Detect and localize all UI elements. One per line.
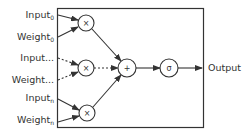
sigma-icon: σ — [166, 64, 171, 73]
multiply-icon: × — [84, 109, 91, 118]
label-weight-0: Weight0 — [17, 31, 54, 43]
label-weight-mid: Weight... — [12, 74, 54, 85]
label-input-mid: Input... — [20, 52, 54, 63]
output-label: Output — [208, 62, 241, 73]
mult-to-sum-arrows — [92, 29, 202, 107]
multiply-node-mid: × — [78, 60, 94, 76]
activation-node: σ — [160, 59, 178, 77]
sum-node: + — [118, 59, 136, 77]
neuron-diagram: Input0 Weight0 Input... Weight... Inputn… — [0, 0, 250, 136]
label-weight-n: Weightn — [17, 114, 54, 126]
multiply-icon: × — [83, 64, 90, 73]
label-input-0: Input0 — [26, 9, 55, 21]
plus-icon: + — [124, 64, 131, 73]
input-arrows — [58, 15, 79, 122]
multiply-node-n: × — [79, 105, 95, 121]
label-input-n: Inputn — [26, 92, 55, 104]
multiply-icon: × — [83, 19, 90, 28]
multiply-node-0: × — [78, 15, 94, 31]
